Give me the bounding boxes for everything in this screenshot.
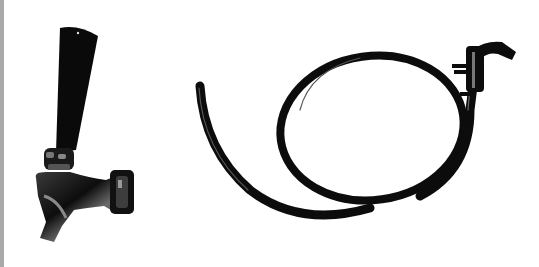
beer-faucet-tap — [36, 27, 134, 242]
coiled-hose-line — [199, 44, 476, 215]
hose-coupler-fitting — [452, 42, 516, 96]
product-photo — [0, 0, 539, 267]
